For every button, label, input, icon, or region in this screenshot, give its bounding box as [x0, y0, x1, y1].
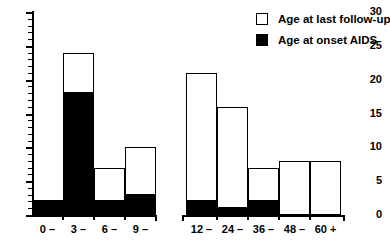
y-tick-major [26, 46, 32, 48]
x-tick [216, 216, 218, 220]
y-tick-minor [28, 127, 32, 128]
y-tick-minor [28, 66, 32, 67]
y-tick-minor [28, 174, 32, 175]
bar-segment-onset [32, 200, 63, 215]
bar [63, 53, 94, 215]
y-tick-major [26, 12, 32, 14]
x-tick-label: 6 – [94, 223, 125, 235]
y-tick-minor [28, 53, 32, 54]
bar [248, 168, 279, 215]
x-tick [278, 216, 280, 220]
y-tick-label: 5 [358, 175, 382, 185]
y-tick-major [26, 181, 32, 183]
x-axis-line-right [182, 215, 345, 217]
x-tick-label: 3 – [63, 223, 94, 235]
y-tick-minor [28, 107, 32, 108]
bar [310, 161, 341, 215]
bar [32, 201, 63, 215]
y-tick-minor [28, 32, 32, 33]
x-tick-label: 24 – [217, 223, 248, 235]
x-tick-label: 60 + [310, 223, 341, 235]
y-tick-minor [28, 59, 32, 60]
legend-label-followup: Age at last follow-up [278, 12, 390, 26]
bar [279, 161, 310, 215]
x-tick [247, 216, 249, 220]
y-tick-minor [28, 93, 32, 94]
bar-segment-onset [217, 207, 248, 215]
y-tick-label: 10 [358, 141, 382, 151]
x-tick [309, 216, 311, 220]
bar [186, 73, 217, 215]
y-tick-label: 15 [358, 108, 382, 118]
bar-segment-onset [125, 194, 156, 215]
legend-swatch-outline-icon [256, 13, 268, 25]
y-tick-label: 20 [358, 74, 382, 84]
y-tick-minor [28, 73, 32, 74]
legend-swatch-filled-icon [256, 34, 268, 46]
y-tick-label: 0 [358, 209, 382, 219]
y-tick-minor [28, 154, 32, 155]
y-tick-minor [28, 19, 32, 20]
x-axis-end-cap [155, 215, 157, 221]
x-tick-label: 36 – [248, 223, 279, 235]
y-tick-minor [28, 161, 32, 162]
bar-segment-onset [63, 92, 94, 215]
y-tick-minor [28, 141, 32, 142]
bar-segment-onset [94, 200, 125, 215]
y-tick-minor [28, 39, 32, 40]
y-tick-minor [28, 100, 32, 101]
y-tick-minor [28, 195, 32, 196]
y-axis-line [32, 11, 34, 216]
y-tick-minor [28, 120, 32, 121]
x-tick-label: 48 – [279, 223, 310, 235]
x-axis-end-cap [182, 215, 184, 221]
y-tick-major [26, 147, 32, 149]
bar-segment-onset [248, 200, 279, 215]
y-tick-minor [28, 168, 32, 169]
x-tick-label: 0 – [32, 223, 63, 235]
y-tick-minor [28, 188, 32, 189]
y-tick-major [26, 114, 32, 116]
bar [217, 107, 248, 215]
x-tick [124, 216, 126, 220]
x-tick-label: 12 – [186, 223, 217, 235]
bar [94, 168, 125, 215]
bar [125, 147, 156, 215]
legend-label-onset: Age at onset AIDS [278, 33, 377, 47]
y-tick-minor [28, 134, 32, 135]
x-tick [62, 216, 64, 220]
bar-segment-onset [186, 200, 217, 215]
x-tick-label: 9 – [125, 223, 156, 235]
x-tick [93, 216, 95, 220]
y-tick-minor [28, 26, 32, 27]
y-tick-minor [28, 86, 32, 87]
x-axis-end-cap [343, 215, 345, 221]
y-tick-major [26, 80, 32, 82]
